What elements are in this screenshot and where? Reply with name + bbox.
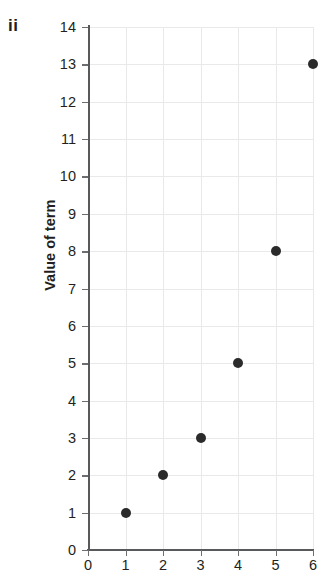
- gridline-vertical: [238, 27, 239, 550]
- y-axis-tick: [82, 64, 88, 65]
- y-axis-tick-labels: 01234567891011121314: [52, 0, 76, 579]
- y-axis-tick-label: 2: [52, 468, 76, 483]
- y-axis-tick-label: 7: [52, 282, 76, 297]
- y-axis-tick: [82, 289, 88, 290]
- x-axis-tick-label: 1: [114, 558, 138, 573]
- x-axis-tick: [201, 550, 202, 556]
- y-axis-tick-label: 3: [52, 431, 76, 446]
- gridline-vertical: [276, 27, 277, 550]
- y-axis-tick-label: 11: [52, 132, 76, 147]
- gridline-vertical: [126, 27, 127, 550]
- x-axis-tick: [163, 550, 164, 556]
- x-axis-tick: [276, 550, 277, 556]
- scatter-plot-figure: ii Value of term 01234567891011121314 01…: [0, 0, 323, 579]
- y-axis-tick: [82, 176, 88, 177]
- x-axis-tick-label: 5: [264, 558, 288, 573]
- x-axis-tick: [88, 550, 89, 556]
- data-point: [308, 59, 318, 69]
- data-point: [271, 246, 281, 256]
- y-axis-tick: [82, 27, 88, 28]
- y-axis-tick: [82, 139, 88, 140]
- y-axis-tick: [82, 102, 88, 103]
- y-axis-tick-label: 8: [52, 244, 76, 259]
- x-axis-tick: [313, 550, 314, 556]
- x-axis-tick: [126, 550, 127, 556]
- y-axis-tick-label: 9: [52, 207, 76, 222]
- plot-area: [88, 27, 313, 550]
- gridline-vertical: [201, 27, 202, 550]
- y-axis-tick: [82, 475, 88, 476]
- y-axis-tick: [82, 214, 88, 215]
- gridline-vertical: [313, 27, 314, 550]
- y-axis-tick: [82, 251, 88, 252]
- y-axis-tick: [82, 401, 88, 402]
- y-axis-tick: [82, 513, 88, 514]
- y-axis-tick-label: 13: [52, 57, 76, 72]
- data-point: [196, 433, 206, 443]
- y-axis-tick: [82, 326, 88, 327]
- x-axis-tick-label: 0: [76, 558, 100, 573]
- y-axis-tick-label: 10: [52, 169, 76, 184]
- data-point: [158, 470, 168, 480]
- x-axis-tick-label: 3: [189, 558, 213, 573]
- y-axis-line: [88, 25, 90, 551]
- data-point: [121, 508, 131, 518]
- data-point: [233, 358, 243, 368]
- y-axis-tick-label: 12: [52, 95, 76, 110]
- y-axis-tick-label: 0: [52, 543, 76, 558]
- y-axis-tick-label: 5: [52, 356, 76, 371]
- y-axis-tick-label: 1: [52, 506, 76, 521]
- part-label: ii: [8, 17, 18, 34]
- x-axis-tick: [238, 550, 239, 556]
- y-axis-tick-label: 6: [52, 319, 76, 334]
- y-axis-tick-label: 14: [52, 20, 76, 35]
- y-axis-tick-label: 4: [52, 394, 76, 409]
- x-axis-tick-label: 4: [226, 558, 250, 573]
- y-axis-tick: [82, 363, 88, 364]
- x-axis-tick-label: 6: [301, 558, 323, 573]
- y-axis-tick: [82, 438, 88, 439]
- x-axis-tick-label: 2: [151, 558, 175, 573]
